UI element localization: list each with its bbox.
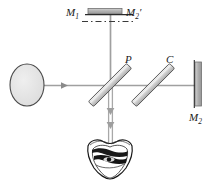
label-mirror-m2-subscript: 2 [198, 117, 202, 126]
label-mirror-m1-subscript: 1 [75, 12, 79, 21]
label-beamsplitter-text: P [124, 53, 132, 65]
label-mirror-m2-virtual-prime: ′ [139, 6, 142, 18]
arrow-output-beam-lower-icon [107, 122, 115, 129]
label-compensator-text: C [166, 53, 174, 65]
label-mirror-m2: M2 [188, 111, 202, 126]
arrow-incident-beam-icon [61, 82, 68, 88]
observer-eye [88, 140, 133, 179]
label-mirror-m1: M1 [65, 6, 79, 21]
michelson-interferometer-figure: M1 M2′ P C M2 [0, 0, 215, 184]
arrow-output-beam-upper-icon [107, 108, 115, 115]
figure-labels: M1 M2′ P C M2 [65, 6, 202, 126]
label-compensator: C [166, 53, 174, 65]
mirror-m2 [194, 60, 201, 108]
label-beamsplitter: P [124, 53, 132, 65]
extended-light-source [10, 64, 44, 106]
label-mirror-m2-virtual: M2′ [125, 6, 142, 21]
